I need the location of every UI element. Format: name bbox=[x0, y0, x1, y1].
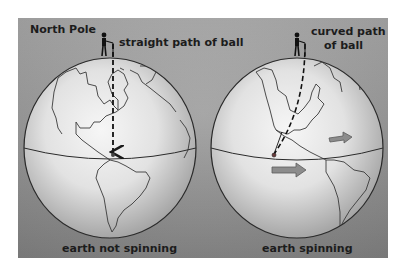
person-icon bbox=[295, 33, 305, 56]
person-icon bbox=[102, 33, 113, 56]
right-globe bbox=[211, 33, 383, 238]
left-globe bbox=[24, 33, 196, 238]
straight-path-label: straight path of ball bbox=[119, 37, 243, 49]
curved-path-label-line1: curved path bbox=[311, 26, 386, 38]
north-pole-label: North Pole bbox=[30, 24, 96, 36]
curved-path-label-line2: of ball bbox=[324, 40, 363, 52]
caption-not-spinning: earth not spinning bbox=[62, 243, 177, 255]
caption-spinning: earth spinning bbox=[262, 243, 353, 255]
